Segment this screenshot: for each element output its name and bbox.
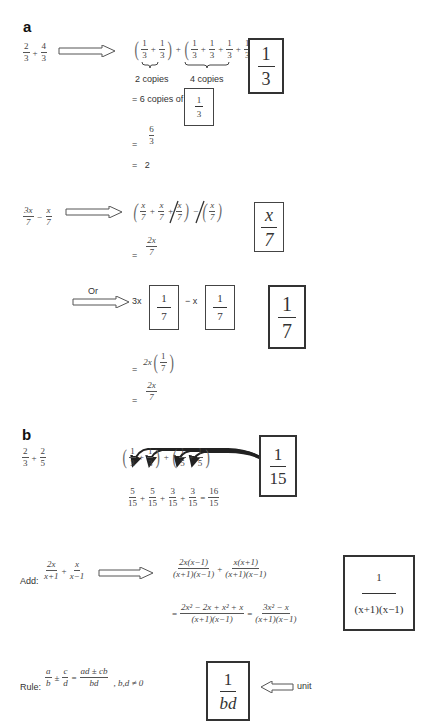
or-label: Or bbox=[88, 286, 98, 296]
alt-step2: = 2x7 bbox=[132, 383, 158, 405]
section-a-label: a bbox=[23, 18, 31, 35]
caption-4-copies: 4 copies bbox=[190, 74, 224, 84]
right-arrow-icon bbox=[65, 206, 123, 218]
alt-step1: = 2x ( 17 ) bbox=[132, 350, 175, 374]
expansion-a1: ( 13 + 13 )+( 13 + 13 + 13 + 13 ) bbox=[133, 38, 259, 60]
result-a2: = 2x7 bbox=[132, 238, 158, 260]
expansion-b: ( 13 + 13 )+( 15 + 15 ) bbox=[121, 446, 212, 468]
add-line1: 2x(x−1)(x+1)(x−1) + x(x+1)(x+1)(x−1) bbox=[172, 558, 267, 579]
rule-formula: ab ± cd = ad ± cbbd , b,d ≠ 0 bbox=[44, 667, 143, 688]
unit-box-one-seventh-a: 17 bbox=[149, 285, 179, 330]
right-arrow-icon bbox=[58, 45, 116, 57]
copies-text: = 6 copies of bbox=[132, 94, 183, 104]
unit-box-one-fifteenth: 115 bbox=[259, 435, 297, 497]
cancel-slash-icon bbox=[168, 200, 180, 224]
unit-box-one-seventh-main: 17 bbox=[268, 285, 306, 349]
problem-a1: 23 + 43 bbox=[22, 42, 48, 63]
step-result-two: = 2 bbox=[132, 160, 150, 170]
underbrace-2-copies bbox=[141, 61, 159, 69]
unit-box-one-over-bd: 1bd bbox=[206, 661, 250, 721]
rule-label: Rule: bbox=[20, 682, 41, 692]
problem-b: 23 + 25 bbox=[21, 447, 47, 468]
section-b-label: b bbox=[22, 426, 31, 443]
cancel-slash-icon bbox=[194, 200, 206, 224]
small-unit-box: 13 bbox=[184, 88, 214, 126]
minus-x: − x bbox=[185, 296, 197, 306]
right-arrow-icon bbox=[98, 567, 154, 579]
left-arrow-icon bbox=[260, 681, 294, 693]
caption-2-copies: 2 copies bbox=[135, 74, 169, 84]
underbrace-4-copies bbox=[184, 61, 230, 69]
step-six-thirds: = 63 bbox=[132, 127, 156, 149]
unit-box-x-sevenths: x7 bbox=[254, 202, 284, 252]
unit-box-one-seventh-b: 17 bbox=[205, 285, 235, 330]
add-label: Add: bbox=[20, 576, 39, 586]
unit-box-rational: 1(x+1)(x−1) bbox=[343, 555, 415, 631]
add-line2: = 2x² − 2x + x² + x(x+1)(x−1) = 3x² − x(… bbox=[170, 603, 297, 624]
unit-box-one-third: 13 bbox=[248, 38, 284, 94]
unit-label: unit bbox=[297, 681, 312, 691]
sum-b: 515 + 515 + 315 + 315 = 1615 bbox=[127, 487, 220, 508]
problem-a2: 3x7 − x7 bbox=[22, 206, 53, 227]
coef-3x: 3x bbox=[132, 296, 142, 306]
add-problem: 2xx+1 + xx−1 bbox=[43, 560, 85, 581]
right-arrow-icon bbox=[72, 296, 130, 308]
